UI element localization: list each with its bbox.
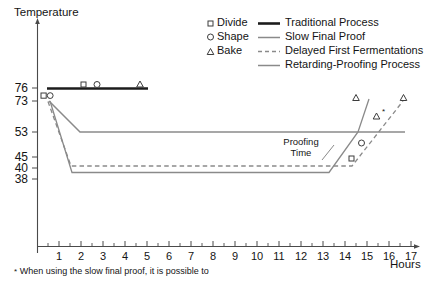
legend-line-label-delayed-first-fermentations: Delayed First Fermentations bbox=[285, 44, 423, 56]
x-tick-label-9: 9 bbox=[227, 250, 243, 262]
proofing-time-line2: Time bbox=[278, 147, 324, 158]
legend-marker-label-bake: Bake bbox=[217, 44, 242, 56]
y-tick-label-38: 38 bbox=[2, 172, 28, 186]
y-axis bbox=[35, 18, 40, 253]
x-tick-label-16: 16 bbox=[381, 250, 397, 262]
footnote-text: When using the slow final proof, it is p… bbox=[20, 266, 209, 276]
x-tick-label-14: 14 bbox=[337, 250, 353, 262]
chart-plot-area: * bbox=[0, 0, 431, 286]
x-tick-label-7: 7 bbox=[183, 250, 199, 262]
x-tick-label-15: 15 bbox=[359, 250, 375, 262]
legend-line-label-traditional-process: Traditional Process bbox=[285, 16, 379, 28]
proofing-time-annotation: Proofing Time bbox=[278, 136, 324, 158]
x-tick-label-3: 3 bbox=[95, 250, 111, 262]
x-axis bbox=[38, 244, 421, 249]
x-axis-ticks bbox=[48, 241, 411, 247]
x-tick-label-4: 4 bbox=[117, 250, 133, 262]
legend-marker-label-shape: Shape bbox=[217, 30, 249, 42]
y-tick-label-53: 53 bbox=[2, 125, 28, 139]
x-tick-label-1: 1 bbox=[51, 250, 67, 262]
y-tick-label-76: 76 bbox=[2, 81, 28, 95]
legend-marker-label-divide: Divide bbox=[217, 16, 248, 28]
x-tick-label-6: 6 bbox=[161, 250, 177, 262]
x-tick-label-10: 10 bbox=[249, 250, 265, 262]
bake-asterisk: * bbox=[382, 107, 385, 116]
legend-line-label-slow-final-proof: Slow Final Proof bbox=[285, 30, 365, 42]
legend-line-label-retarding-proofing-process: Retarding-Proofing Process bbox=[285, 58, 420, 70]
legend-marker-glyphs bbox=[207, 21, 214, 55]
x-tick-label-8: 8 bbox=[205, 250, 221, 262]
x-tick-label-17: 17 bbox=[403, 250, 419, 262]
temperature-hours-chart: * Temperature Hours 76 73 53 45 40 38 1 … bbox=[0, 0, 431, 286]
y-axis-title: Temperature bbox=[14, 6, 79, 18]
y-axis-ticks bbox=[32, 88, 38, 179]
x-tick-label-11: 11 bbox=[271, 250, 287, 262]
data-markers bbox=[41, 81, 407, 161]
legend-line-glyphs bbox=[258, 24, 280, 66]
x-tick-label-13: 13 bbox=[315, 250, 331, 262]
y-tick-label-73: 73 bbox=[2, 94, 28, 108]
footnote: * When using the slow final proof, it is… bbox=[14, 266, 209, 276]
proofing-time-line1: Proofing bbox=[278, 136, 324, 147]
series-slow-final-proof bbox=[49, 101, 405, 132]
x-tick-label-12: 12 bbox=[293, 250, 309, 262]
footnote-asterisk: * bbox=[14, 267, 17, 276]
x-tick-label-2: 2 bbox=[73, 250, 89, 262]
x-tick-label-5: 5 bbox=[139, 250, 155, 262]
